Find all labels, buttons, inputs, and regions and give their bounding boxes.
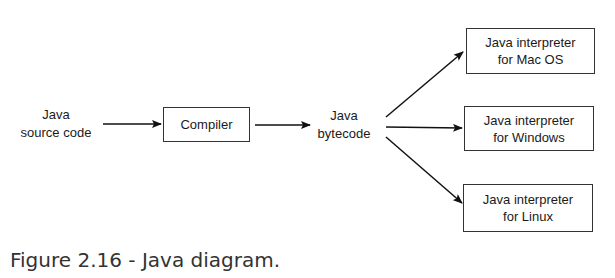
arrow-bytecode-to-windows bbox=[386, 127, 462, 128]
interpreter-linux-line1: Java interpreter bbox=[483, 191, 573, 208]
arrow-bytecode-to-linux bbox=[386, 137, 462, 203]
bytecode-line1: Java bbox=[308, 107, 380, 125]
bytecode-label: Java bytecode bbox=[308, 107, 380, 143]
interpreter-mac-line2: for Mac OS bbox=[498, 51, 564, 68]
arrow-bytecode-to-mac bbox=[386, 52, 463, 117]
interpreter-linux-line2: for Linux bbox=[503, 208, 553, 225]
interpreter-linux-box: Java interpreter for Linux bbox=[463, 184, 593, 232]
compiler-box: Compiler bbox=[163, 107, 250, 142]
source-line2: source code bbox=[6, 124, 106, 142]
figure-caption: Figure 2.16 - Java diagram. bbox=[10, 248, 280, 272]
interpreter-windows-line1: Java interpreter bbox=[484, 112, 574, 129]
source-line1: Java bbox=[6, 106, 106, 124]
compiler-label: Compiler bbox=[180, 116, 232, 133]
interpreter-mac-line1: Java interpreter bbox=[485, 34, 575, 51]
source-code-label: Java source code bbox=[6, 106, 106, 142]
interpreter-mac-box: Java interpreter for Mac OS bbox=[466, 28, 595, 74]
bytecode-line2: bytecode bbox=[308, 125, 380, 143]
interpreter-windows-line2: for Windows bbox=[493, 129, 565, 146]
interpreter-windows-box: Java interpreter for Windows bbox=[464, 106, 594, 151]
